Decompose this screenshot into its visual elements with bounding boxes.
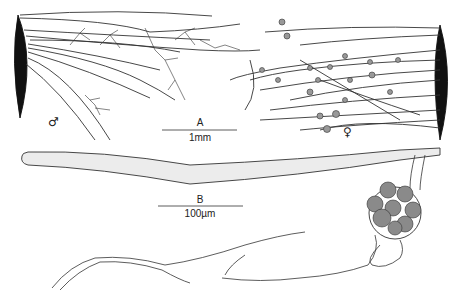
panel-label-b: B (193, 195, 207, 205)
elongate-cell (22, 148, 440, 184)
panel-label-a: A (193, 118, 207, 128)
oospores (367, 182, 421, 235)
figure: A 1mm B 100µm ♂ ♀ (0, 0, 460, 303)
female-symbol: ♀ (343, 125, 352, 139)
right-substrate (435, 25, 448, 140)
scale-label-b: 100µm (175, 209, 225, 219)
illustration (0, 0, 460, 303)
male-symbol: ♂ (48, 115, 59, 129)
scale-label-a: 1mm (180, 133, 220, 143)
rhizoids (52, 232, 403, 290)
